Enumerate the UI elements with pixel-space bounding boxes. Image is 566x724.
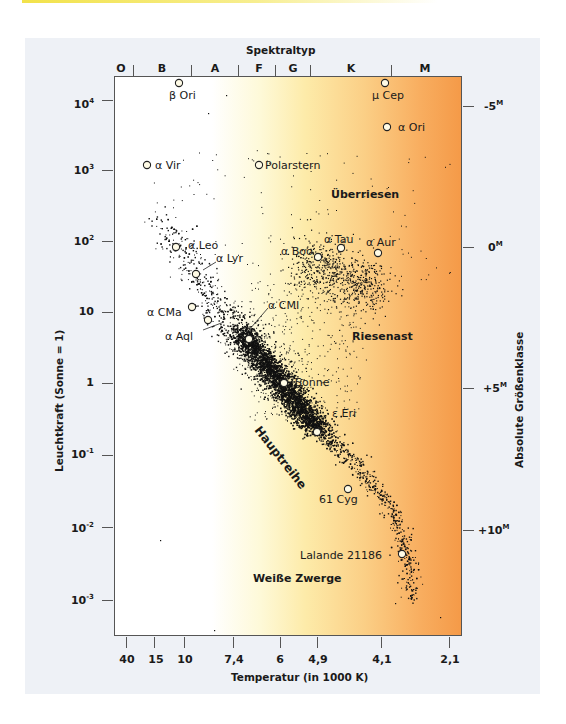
y-tick-mark <box>102 312 113 313</box>
x-tick-6: 6 <box>276 653 284 666</box>
x-tick-15: 15 <box>148 653 163 666</box>
y-tick-1e4: 104 <box>54 97 94 111</box>
y2-axis-title: Absolute Größenklasse <box>513 332 525 468</box>
star-marker-sonne <box>280 379 287 386</box>
y-tick-1e-3: 10-3 <box>54 593 94 607</box>
x-tick-mark <box>126 637 127 648</box>
star-label-sonne: Sonne <box>295 377 329 388</box>
star-marker-alpha-aql <box>204 316 211 323</box>
star-marker-alpha-boo <box>314 253 321 260</box>
star-label-alpha-aql: α Aql <box>165 331 193 342</box>
star-label-alpha-ori: α Ori <box>398 122 425 133</box>
star-label-61-cyg: 61 Cyg <box>319 494 358 505</box>
star-label-alpha-vir: α Vir <box>155 160 181 171</box>
y-tick-1e-2: 10-2 <box>54 521 94 535</box>
star-marker-beta-ori <box>175 79 182 86</box>
star-label-lalande: Lalande 21186 <box>300 550 382 561</box>
x-tick-mark <box>154 637 155 648</box>
y-tick-mark <box>102 527 113 528</box>
x-tick-mark <box>233 637 234 648</box>
star-marker-alpha-ori <box>383 123 390 130</box>
star-marker-alpha-cma <box>188 303 195 310</box>
star-marker-alpha-vir <box>143 161 150 168</box>
star-marker-polarstern <box>255 161 262 168</box>
x-tick-2-1: 2,1 <box>440 653 460 666</box>
x-tick-7-4: 7,4 <box>224 653 244 666</box>
region-riesenast: Riesenast <box>352 331 413 342</box>
x-tick-4-9: 4,9 <box>308 653 328 666</box>
region-weisse-zwerge: Weiße Zwerge <box>253 573 342 584</box>
x-tick-mark <box>381 637 382 648</box>
y2-tick-mark <box>463 247 474 248</box>
x-tick-40: 40 <box>119 653 134 666</box>
y2-tick-mark <box>463 106 474 107</box>
star-label-eps-eri: ε Eri <box>332 408 356 419</box>
star-marker-alpha-leo <box>172 243 179 250</box>
star-label-alpha-lyr: α Lyr <box>216 253 243 264</box>
y-tick-mark <box>102 241 113 242</box>
star-marker-eps-eri <box>313 428 320 435</box>
star-marker-61-cyg <box>344 485 351 492</box>
star-label-mu-cep: μ Cep <box>372 90 404 101</box>
star-marker-lalande <box>398 550 405 557</box>
y2-tick-0: 0M <box>488 240 503 254</box>
x-tick-mark <box>184 637 185 648</box>
y-tick-10: 10 <box>54 305 94 318</box>
star-label-alpha-aur: α Aur <box>366 237 396 248</box>
star-label-alpha-boo: α Boo <box>281 246 313 257</box>
y-tick-mark <box>102 455 113 456</box>
star-label-alpha-leo: α Leo <box>188 240 218 251</box>
y-tick-mark <box>102 383 113 384</box>
y-tick-1e3: 103 <box>54 163 94 177</box>
y-axis-title: Leuchtkraft (Sonne = 1) <box>53 330 65 472</box>
region-ueberriesen: Überriesen <box>331 189 399 200</box>
star-marker-mu-cep <box>381 79 388 86</box>
star-marker-alpha-cmi <box>245 335 252 342</box>
label-leader-line <box>249 308 268 330</box>
star-label-alpha-cmi: α CMI <box>268 300 299 311</box>
star-marker-alpha-lyr <box>192 270 199 277</box>
y2-tick-mark <box>463 530 474 531</box>
star-label-polarstern: Polarstern <box>265 160 320 171</box>
y2-tick-minus5: -5M <box>484 99 503 113</box>
y2-tick-plus10: +10M <box>478 523 510 537</box>
y2-tick-mark <box>463 388 474 389</box>
x-axis-title: Temperatur (in 1000 K) <box>231 671 368 683</box>
y-tick-mark <box>102 170 113 171</box>
x-tick-mark <box>317 637 318 648</box>
x-tick-mark <box>280 637 281 648</box>
star-marker-alpha-aur <box>374 249 381 256</box>
y-tick-mark <box>102 100 113 101</box>
x-tick-mark <box>449 637 450 648</box>
star-label-alpha-cma: α CMa <box>147 307 182 318</box>
x-tick-4-1: 4,1 <box>372 653 392 666</box>
x-tick-10: 10 <box>177 653 192 666</box>
y-tick-1e2: 102 <box>54 234 94 248</box>
star-label-beta-ori: β Ori <box>169 90 196 101</box>
star-label-alpha-tau: α Tau <box>324 234 353 245</box>
y2-tick-plus5: +5M <box>483 381 507 395</box>
y-tick-mark <box>102 600 113 601</box>
